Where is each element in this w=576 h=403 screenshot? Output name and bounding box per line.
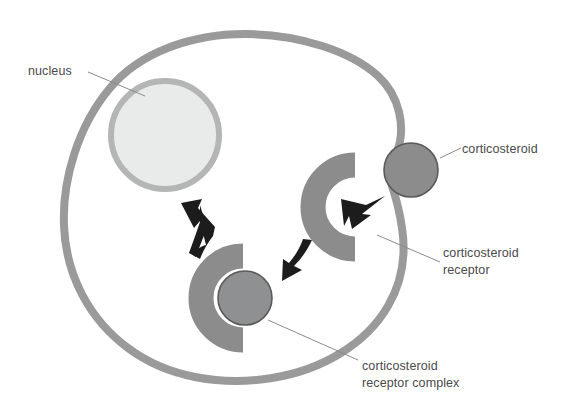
label-corticosteroid: corticosteroid <box>462 141 538 158</box>
label-corticosteroid-receptor: corticosteroidreceptor <box>443 245 519 279</box>
label-corticosteroid-receptor-complex-line2: receptor complex <box>362 376 459 390</box>
nucleus-shape <box>111 81 219 189</box>
cell-diagram-svg <box>0 0 576 403</box>
leader-line-receptor <box>377 235 440 262</box>
arrow-steroid-binds-receptor <box>341 196 385 229</box>
arrow-complex-forms <box>282 239 312 281</box>
leader-line-complex <box>268 320 358 360</box>
arrow-complex-to-nucleus <box>181 199 215 259</box>
diagram-canvas: nucleus corticosteroid corticosteroidrec… <box>0 0 576 403</box>
label-corticosteroid-receptor-complex-line1: corticosteroid <box>362 359 438 373</box>
label-nucleus: nucleus <box>28 63 72 80</box>
leader-line-corticosteroid <box>440 148 461 158</box>
label-corticosteroid-receptor-line1: corticosteroid <box>443 246 519 260</box>
corticosteroid-receptor-complex-shape <box>201 256 272 340</box>
corticosteroid-shape <box>384 143 438 197</box>
label-corticosteroid-receptor-complex: corticosteroidreceptor complex <box>362 358 459 392</box>
label-corticosteroid-receptor-line2: receptor <box>443 263 490 277</box>
